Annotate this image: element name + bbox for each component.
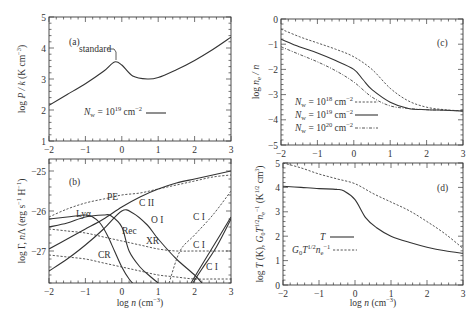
- y-tick-label: 3: [275, 207, 280, 217]
- y-axis-label: log ne / n: [251, 65, 262, 100]
- y-tick-labels: −25−26−27: [31, 167, 46, 257]
- legend-label: Nw = 1019 cm−2: [83, 105, 142, 118]
- panel-label: (b): [69, 177, 80, 188]
- series-line: [49, 215, 158, 283]
- y-tick-labels: 0−1−2−3−4−5: [268, 15, 278, 151]
- y-tick-label: 2: [41, 106, 46, 116]
- annotation-cr: CR: [98, 250, 111, 260]
- y-tick-label: −27: [31, 247, 46, 257]
- x-tick-label: −2: [278, 289, 288, 299]
- x-tick-label: 2: [424, 149, 429, 159]
- plot-frame: [283, 163, 463, 285]
- annotation-pe: PE: [107, 192, 118, 202]
- x-tick-labels: −2−10123: [44, 145, 234, 155]
- x-tick-label: 2: [192, 287, 197, 297]
- y-tick-label: −25: [31, 167, 46, 177]
- y-tick-label: 1: [275, 256, 280, 266]
- y-tick-label: −1: [268, 40, 278, 50]
- y-axis-label: log P / k (K cm−3): [15, 45, 28, 113]
- y-tick-label: 3: [41, 75, 46, 85]
- panel-d: −2−10123012345(d)TG0T1/2ne−1log n (cm−3)…: [254, 159, 466, 310]
- annotation-xr: XR: [146, 236, 160, 246]
- x-tick-label: 1: [388, 149, 393, 159]
- x-tick-label: 0: [351, 149, 356, 159]
- series-line: [49, 37, 231, 105]
- panel-a: −2−1012312345(a)standardNw = 1019 cm−2lo…: [15, 13, 234, 156]
- figure-canvas: −2−1012312345(a)standardNw = 1019 cm−2lo…: [0, 0, 476, 323]
- x-tick-label: −2: [44, 287, 54, 297]
- series-group: [49, 171, 231, 287]
- series-line: [191, 217, 231, 283]
- panel-c: −2−101230−1−2−3−4−5(c)Nw = 1018 cm−2Nw =…: [251, 15, 466, 160]
- y-tick-label: 5: [275, 159, 280, 169]
- series-group: [283, 163, 463, 253]
- y-tick-label: 0: [275, 281, 280, 291]
- x-tick-label: −1: [80, 145, 90, 155]
- y-tick-label: 1: [41, 137, 46, 147]
- y-tick-label: −26: [31, 207, 46, 217]
- x-tick-labels: −2−10123: [276, 149, 466, 159]
- panel-b: −2−10123−25−26−27(b)PELyαC IIO IRecXRCRC…: [15, 159, 234, 309]
- x-tick-label: −1: [80, 287, 90, 297]
- y-tick-label: −4: [268, 115, 278, 125]
- y-tick-labels: 12345: [41, 13, 46, 147]
- annotation-standard: standard: [79, 44, 111, 54]
- x-tick-label: 0: [119, 145, 124, 155]
- x-tick-labels: −2−10123: [44, 287, 234, 297]
- series-group: [49, 37, 231, 105]
- annotation-ci: C I: [193, 212, 205, 222]
- y-tick-label: 4: [41, 44, 46, 54]
- legend-label: Nw = 1020 cm−2: [294, 121, 353, 134]
- x-tick-label: 3: [461, 289, 466, 299]
- x-axis-label: log n (cm−3): [117, 296, 164, 309]
- x-tick-label: 3: [229, 287, 234, 297]
- x-tick-label: 0: [119, 287, 124, 297]
- annotation-lya: Lyα: [76, 209, 91, 219]
- annotation-cii: C II: [139, 198, 154, 208]
- y-tick-label: 5: [41, 13, 46, 23]
- x-tick-label: −2: [44, 145, 54, 155]
- annotation-rec: Rec: [122, 226, 137, 236]
- x-tick-label: 2: [192, 145, 197, 155]
- y-tick-label: 0: [273, 15, 278, 25]
- panel-label: (a): [69, 37, 80, 48]
- x-tick-label: 3: [229, 145, 234, 155]
- y-axis-label: log T (K), G0T1/2ne−1 (K1/2 cm3): [254, 165, 266, 282]
- x-tick-label: −1: [312, 149, 322, 159]
- annotation-ci: C I: [206, 262, 218, 272]
- annotation-oi: O I: [151, 215, 163, 225]
- y-tick-label: 4: [275, 183, 280, 193]
- y-tick-label: −2: [268, 65, 278, 75]
- y-tick-labels: 012345: [275, 159, 280, 291]
- legend-label: T: [320, 232, 326, 242]
- series-line: [49, 210, 202, 283]
- x-tick-label: 3: [461, 149, 466, 159]
- plot-frame: [49, 17, 231, 141]
- y-tick-label: −5: [268, 141, 278, 151]
- y-axis-label: log Γ, nΛ (erg s−1 H−1): [15, 179, 28, 264]
- panel-label: (d): [437, 183, 448, 194]
- y-tick-label: −3: [268, 90, 278, 100]
- annotation-ci: C I: [193, 240, 205, 250]
- x-tick-label: 2: [425, 289, 430, 299]
- x-tick-label: 1: [156, 145, 161, 155]
- y-tick-label: 2: [275, 232, 280, 242]
- legend-label: Nw = 1018 cm−2: [294, 95, 353, 108]
- legend-label: Nw = 1019 cm−2: [294, 108, 353, 121]
- series-line: [283, 163, 463, 248]
- x-tick-label: −1: [314, 289, 324, 299]
- x-axis-label: log n (cm−3): [350, 296, 397, 309]
- legend-label: G0T1/2ne−1: [292, 243, 330, 256]
- panel-label: (c): [437, 38, 448, 49]
- x-tick-label: −2: [276, 149, 286, 159]
